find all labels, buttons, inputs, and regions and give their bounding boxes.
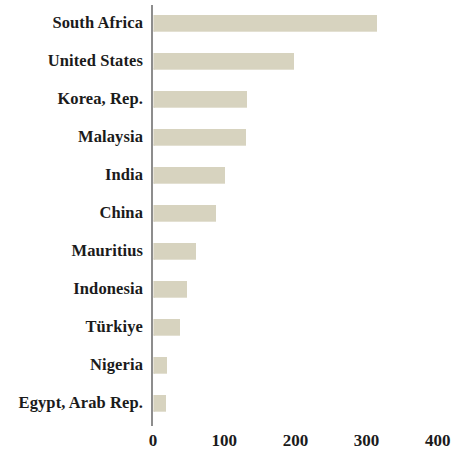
x-axis: 0100200300400 <box>0 428 452 462</box>
category-label: United States <box>0 42 143 80</box>
bar-row: Korea, Rep. <box>0 80 452 118</box>
x-tick-label: 100 <box>211 431 237 451</box>
bar <box>153 281 187 298</box>
bar-row: Malaysia <box>0 118 452 156</box>
bar-row: Egypt, Arab Rep. <box>0 384 452 422</box>
x-tick-label: 200 <box>283 431 309 451</box>
bar <box>153 243 196 260</box>
bar <box>153 15 377 32</box>
category-label: Nigeria <box>0 346 143 384</box>
bar-row: South Africa <box>0 4 452 42</box>
bar <box>153 319 180 336</box>
bar <box>153 205 216 222</box>
bar-row: China <box>0 194 452 232</box>
bar-rows: South AfricaUnited StatesKorea, Rep.Mala… <box>0 0 452 428</box>
category-label: India <box>0 156 143 194</box>
bar <box>153 53 294 70</box>
bar-chart: South AfricaUnited StatesKorea, Rep.Mala… <box>0 0 452 462</box>
bar <box>153 357 167 374</box>
bar-row: United States <box>0 42 452 80</box>
bar <box>153 167 225 184</box>
x-tick-label: 300 <box>354 431 380 451</box>
bar <box>153 395 166 412</box>
x-tick-label: 400 <box>425 431 451 451</box>
bar-row: India <box>0 156 452 194</box>
category-label: Egypt, Arab Rep. <box>0 384 143 422</box>
bar-row: Türkiye <box>0 308 452 346</box>
bar <box>153 129 246 146</box>
category-label: Korea, Rep. <box>0 80 143 118</box>
x-tick-label: 0 <box>149 431 158 451</box>
category-label: Mauritius <box>0 232 143 270</box>
bar-row: Indonesia <box>0 270 452 308</box>
category-label: Türkiye <box>0 308 143 346</box>
category-label: China <box>0 194 143 232</box>
bar-row: Nigeria <box>0 346 452 384</box>
bar-row: Mauritius <box>0 232 452 270</box>
category-label: Indonesia <box>0 270 143 308</box>
category-label: South Africa <box>0 4 143 42</box>
plot-area: South AfricaUnited StatesKorea, Rep.Mala… <box>0 0 452 428</box>
bar <box>153 91 247 108</box>
category-label: Malaysia <box>0 118 143 156</box>
